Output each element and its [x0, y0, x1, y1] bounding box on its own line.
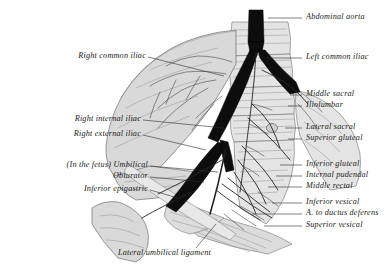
- label-inferior-vesical: Inferior vesical: [306, 198, 359, 206]
- label-middle-sacral: Middle sacral: [306, 90, 354, 98]
- label-right-common-iliac: Right common iliac: [78, 52, 146, 60]
- label-umbilical: (In the fetus) Umbilical: [67, 161, 148, 169]
- anatomical-figure: Abdominal aorta Left common iliac Middle…: [0, 0, 387, 277]
- label-superior-vesical: Superior vesical: [306, 221, 363, 229]
- label-internal-pudendal: Internal pudendal: [306, 171, 368, 179]
- label-artery-to-ductus-deferens: A. to ductus deferens: [306, 209, 379, 217]
- label-right-external-iliac: Right external iliac: [74, 130, 141, 138]
- label-inferior-epigastric: Inferior epigastric: [84, 185, 148, 193]
- label-lateral-sacral: Lateral sacral: [306, 123, 355, 131]
- label-obturator: Obturator: [113, 172, 148, 180]
- label-lateral-umbilical-ligament: Lateral umbilical ligament: [118, 249, 211, 257]
- label-middle-rectal: Middle rectal: [306, 182, 353, 190]
- label-inferior-gluteal: Inferior gluteal: [306, 160, 359, 168]
- label-superior-gluteal: Superior gluteal: [306, 134, 363, 142]
- abdominal-aorta-vessel: [248, 10, 264, 52]
- label-right-internal-iliac: Right internal iliac: [75, 115, 141, 123]
- label-abdominal-aorta: Abdominal aorta: [306, 13, 365, 21]
- label-left-common-iliac: Left common iliac: [306, 53, 369, 61]
- label-iliolumbar: Iliolumbar: [306, 101, 343, 109]
